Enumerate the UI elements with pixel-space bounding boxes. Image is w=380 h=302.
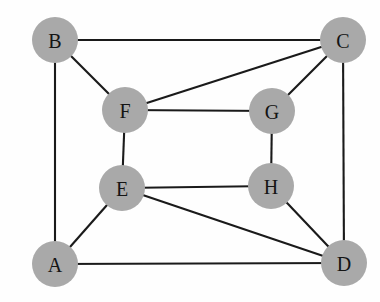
graph-node-d[interactable]: D — [321, 240, 367, 286]
node-label-h: H — [264, 176, 278, 198]
node-label-f: F — [119, 100, 130, 122]
node-label-e: E — [116, 178, 128, 200]
graph-edge-c-d[interactable] — [343, 40, 344, 263]
graph-node-g[interactable]: G — [249, 88, 295, 134]
graph-edge-a-d[interactable] — [55, 263, 344, 264]
graph-canvas: ABCDEFGH — [0, 0, 380, 302]
node-label-g: G — [265, 101, 279, 123]
node-label-a: A — [48, 254, 63, 276]
graph-figure: ABCDEFGH — [0, 0, 380, 302]
graph-edge-e-d[interactable] — [122, 188, 344, 263]
graph-node-f[interactable]: F — [102, 87, 148, 133]
graph-edge-c-f[interactable] — [125, 40, 343, 110]
node-label-c: C — [336, 30, 349, 52]
graph-node-h[interactable]: H — [248, 163, 294, 209]
graph-node-e[interactable]: E — [99, 165, 145, 211]
node-layer: ABCDEFGH — [32, 17, 367, 287]
graph-node-c[interactable]: C — [320, 17, 366, 63]
graph-node-a[interactable]: A — [32, 241, 78, 287]
graph-node-b[interactable]: B — [32, 17, 78, 63]
node-label-d: D — [337, 253, 351, 275]
node-label-b: B — [48, 30, 61, 52]
edge-layer — [55, 40, 344, 264]
